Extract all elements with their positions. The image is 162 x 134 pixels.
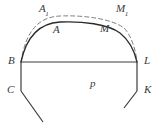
- label-L: L: [144, 55, 150, 66]
- label-M: M: [100, 23, 109, 34]
- label-M1-base: M: [116, 2, 125, 14]
- label-A: A: [53, 24, 60, 35]
- label-A1-subscript: 1: [45, 10, 49, 18]
- left-tail-line-from-C: [21, 91, 43, 122]
- label-M1: M1: [116, 3, 129, 17]
- label-p: p: [90, 78, 96, 89]
- right-tail-line-from-K: [124, 91, 137, 108]
- label-B: B: [8, 55, 15, 66]
- straight-lines-group: [21, 62, 137, 122]
- solid-inner-arc: [21, 22, 137, 62]
- arc-group: [21, 16, 137, 62]
- label-K: K: [144, 84, 151, 95]
- label-A1: A1: [39, 3, 49, 17]
- label-C: C: [7, 84, 14, 95]
- label-M1-subscript: 1: [125, 10, 129, 18]
- figure-container: A1 M1 A M B L p C K: [0, 0, 162, 134]
- figure-drawing: [0, 0, 162, 134]
- dashed-outer-arc: [21, 16, 137, 62]
